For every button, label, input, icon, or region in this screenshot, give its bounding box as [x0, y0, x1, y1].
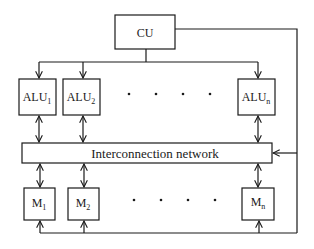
simd-diagram: CU ALU1 ALU2 ALUn Interconnection networ… — [0, 0, 314, 249]
svg-text:ALU2: ALU2 — [67, 90, 96, 106]
alu-ellipsis — [128, 93, 212, 96]
svg-text:ALU1: ALU1 — [23, 90, 52, 106]
alu-n-box: ALUn — [238, 79, 275, 115]
memory-n-box: Mn — [242, 188, 274, 220]
alu-2-box: ALU2 — [63, 79, 100, 115]
memory-1-box: M1 — [24, 188, 55, 220]
control-unit-label: CU — [137, 26, 154, 40]
alu-1-box: ALU1 — [19, 79, 56, 115]
network-label: Interconnection network — [91, 146, 219, 161]
control-unit-box: CU — [115, 15, 175, 49]
memory-ellipsis — [133, 199, 217, 202]
memory-2-box: M2 — [68, 188, 99, 220]
interconnection-network-box: Interconnection network — [22, 143, 272, 163]
cu-control-line — [175, 29, 297, 233]
svg-text:ALUn: ALUn — [242, 90, 271, 106]
